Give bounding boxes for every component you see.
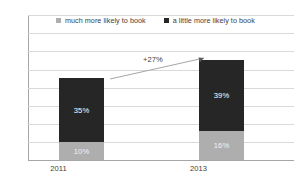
bar-segment-much-more-likely[interactable]: 10% (59, 142, 104, 160)
bar-segment-a-little-more-likely[interactable]: 35% (59, 78, 104, 142)
gridline (28, 33, 294, 34)
x-axis-tick-label-2013: 2013 (176, 164, 221, 173)
x-axis-line (28, 160, 294, 161)
bar-value-label: 39% (214, 91, 230, 100)
bar-value-label: 35% (74, 106, 90, 115)
bar-value-label: 16% (214, 141, 230, 150)
bar-value-label: 10% (74, 147, 90, 156)
stacked-bar-chart: much more likely to book a little more l… (0, 0, 300, 176)
annotation-growth-label: +27% (143, 55, 163, 64)
x-axis-tick-label-2011: 2011 (36, 164, 81, 173)
bar-group-2013[interactable]: 39% 16% (199, 60, 244, 160)
bar-segment-a-little-more-likely[interactable]: 39% (199, 60, 244, 131)
gridline (28, 51, 294, 52)
gridline (28, 15, 294, 16)
plot-area: 35% 10% 39% 16% (28, 15, 294, 161)
bar-segment-much-more-likely[interactable]: 16% (199, 131, 244, 160)
bar-group-2011[interactable]: 35% 10% (59, 78, 104, 160)
gridline (28, 70, 294, 71)
